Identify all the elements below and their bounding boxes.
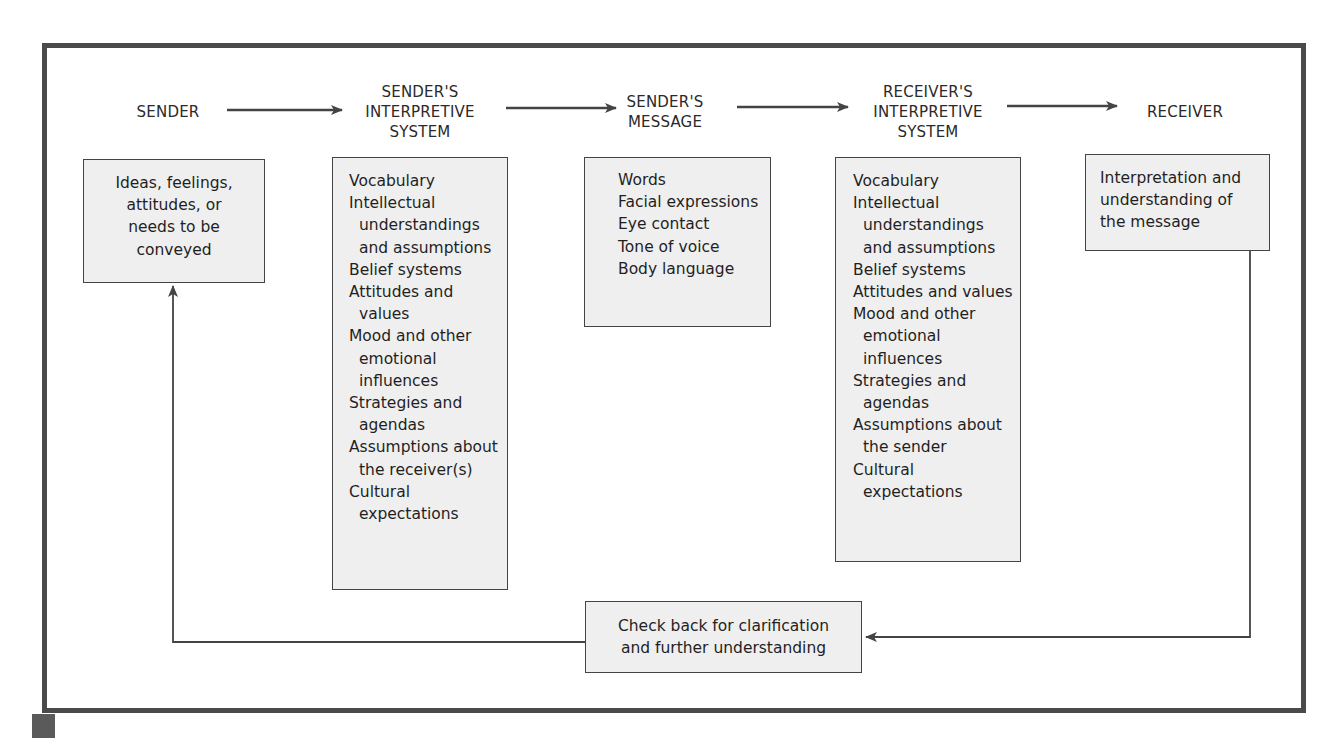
sender-message-list: Words Facial expressions Eye contact Ton…: [609, 169, 764, 280]
header-sender-interpretive-system: SENDER'S INTERPRETIVE SYSTEM: [345, 82, 495, 142]
receiver-box: Interpretation and understanding of the …: [1085, 154, 1270, 251]
list-item: Cultural expectations: [340, 481, 501, 525]
list-item: Strategies and agendas: [844, 370, 1016, 414]
receiver-interpretive-system-box: Vocabulary Intellectual understandings a…: [835, 157, 1021, 562]
header-receiver-interpretive-system: RECEIVER'S INTERPRETIVE SYSTEM: [848, 82, 1008, 142]
list-item: Strategies and agendas: [340, 392, 501, 436]
feedback-box: Check back for clarification and further…: [585, 601, 862, 673]
sender-interpretive-system-box: Vocabulary Intellectual understandings a…: [332, 157, 508, 590]
list-item: Intellectual understandings and assumpti…: [340, 192, 501, 259]
header-sender: SENDER: [118, 102, 218, 122]
receiver-box-text: Interpretation and understanding of the …: [1100, 167, 1263, 234]
list-item: Vocabulary: [844, 170, 1016, 192]
list-item: Eye contact: [609, 213, 764, 235]
list-item: Attitudes and values: [844, 281, 1016, 303]
list-item: Mood and other emotional influences: [844, 303, 1016, 370]
sender-box-text: Ideas, feelings, attitudes, or needs to …: [84, 172, 264, 261]
list-item: Tone of voice: [609, 236, 764, 258]
list-item: Intellectual understandings and assumpti…: [844, 192, 1016, 259]
feedback-box-text: Check back for clarification and further…: [586, 615, 861, 659]
receiver-interpretive-system-list: Vocabulary Intellectual understandings a…: [844, 170, 1016, 503]
list-item: Belief systems: [340, 259, 501, 281]
header-receiver: RECEIVER: [1120, 102, 1250, 122]
list-item: Assumptions about the receiver(s): [340, 436, 501, 480]
sender-interpretive-system-list: Vocabulary Intellectual understandings a…: [340, 170, 501, 525]
page-corner-mark: [32, 714, 55, 738]
list-item: Body language: [609, 258, 764, 280]
list-item: Words: [609, 169, 764, 191]
list-item: Attitudes and values: [340, 281, 501, 325]
list-item: Vocabulary: [340, 170, 501, 192]
list-item: Cultural expectations: [844, 459, 1016, 503]
list-item: Assumptions about the sender: [844, 414, 1016, 458]
sender-message-box: Words Facial expressions Eye contact Ton…: [584, 157, 771, 327]
sender-box: Ideas, feelings, attitudes, or needs to …: [83, 159, 265, 283]
list-item: Mood and other emotional influences: [340, 325, 501, 392]
list-item: Belief systems: [844, 259, 1016, 281]
header-sender-message: SENDER'S MESSAGE: [600, 92, 730, 132]
list-item: Facial expressions: [609, 191, 764, 213]
